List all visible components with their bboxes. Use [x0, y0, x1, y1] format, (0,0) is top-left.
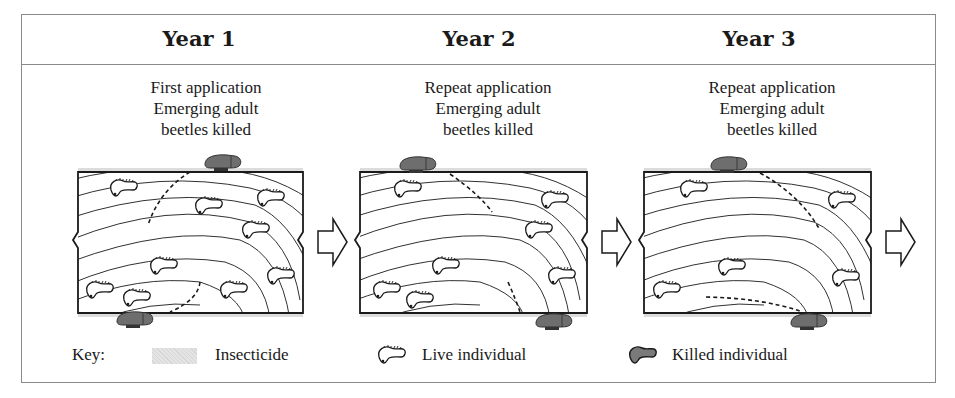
wood-panels-illustration: [0, 0, 955, 398]
live-larva-icon: [681, 179, 707, 197]
legend-key-label: Key:: [72, 345, 105, 365]
live-larva-icon: [111, 178, 137, 196]
year-2-wood-block: [350, 157, 610, 330]
live-larva-icon: [243, 220, 269, 238]
killed-beetle-icon: [791, 314, 827, 330]
live-larva-icon: [268, 266, 294, 284]
legend-live-label: Live individual: [422, 345, 526, 365]
live-larva-icon: [542, 190, 568, 208]
live-larva-icon: [87, 280, 113, 298]
live-larva-icon: [407, 290, 433, 308]
legend: Key: Insecticide Live individual Killed …: [72, 345, 872, 367]
live-larva-icon: [719, 257, 745, 275]
live-larva-icon: [526, 220, 552, 238]
live-larva-icon: [829, 190, 855, 208]
live-larva-icon: [258, 188, 284, 206]
live-larva-icon: [833, 268, 859, 286]
live-larva-icon: [395, 179, 421, 197]
live-larva-icon: [654, 280, 680, 298]
insecticide-swatch-icon: [152, 348, 197, 364]
next-year-arrow-icon: [602, 219, 631, 265]
live-larva-icon: [124, 288, 150, 306]
killed-beetle-icon: [536, 314, 572, 330]
year-1-wood-block: [70, 155, 330, 328]
killed-beetle-icon: [117, 312, 153, 328]
legend-killed-label: Killed individual: [672, 345, 788, 365]
year-3-wood-block: [634, 157, 894, 330]
live-larva-icon: [221, 280, 247, 298]
live-larva-icon: [374, 280, 400, 298]
live-larva-icon: [151, 256, 177, 274]
next-year-arrow-icon: [886, 219, 915, 265]
legend-insecticide-label: Insecticide: [215, 345, 289, 365]
next-year-arrow-icon: [318, 219, 347, 265]
